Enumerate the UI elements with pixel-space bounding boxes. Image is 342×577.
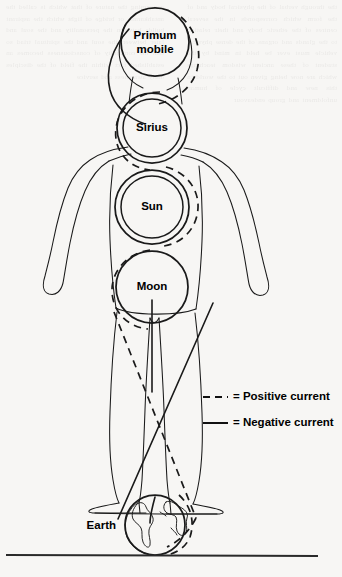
- primum-mobile-circle: [121, 8, 189, 76]
- legend-item-positive-current: = Positive current: [203, 390, 330, 402]
- right-armpit-line: [181, 155, 203, 162]
- right-shoulder-arm: [184, 148, 269, 295]
- right-leg-outer: [193, 313, 202, 504]
- right-leg-inner: [159, 318, 170, 503]
- negative-current-diagonal: [118, 303, 213, 519]
- positive-current-diagonal: [114, 312, 196, 518]
- sphere-sun: Sun: [115, 170, 189, 244]
- left-leg-outer: [110, 312, 119, 503]
- sphere-sirius: Sirius: [117, 93, 187, 163]
- positive-current-earth-right: [167, 495, 192, 555]
- legend: = Positive current = Negative current: [203, 390, 334, 428]
- ankle-left: [139, 503, 140, 513]
- diagram-canvas: the through verbal of the physical body …: [0, 0, 342, 577]
- right-foot: [166, 504, 223, 514]
- moon-label: Moon: [137, 280, 168, 292]
- left-leg-inner: [139, 318, 150, 503]
- earth-label: Earth: [87, 519, 116, 531]
- left-foot: [89, 503, 146, 513]
- earth-limb-arc: [125, 501, 148, 554]
- legend-negative-current-label: = Negative current: [233, 416, 334, 428]
- ankle-right: [170, 503, 171, 514]
- torso-right-side: [196, 166, 202, 309]
- human-figure-outline: [43, 25, 268, 514]
- bottom-rule: [6, 555, 318, 556]
- primum-mobile-label-line1: Primum: [134, 29, 177, 41]
- positive-current-sun-arc: [164, 167, 198, 246]
- sphere-earth: Earth: [87, 495, 188, 555]
- negative-current-earth-link: [150, 497, 155, 523]
- celestial-currents-figure: Primum mobile Sirius Sun Moon: [0, 0, 342, 577]
- legend-positive-current-label: = Positive current: [233, 390, 330, 402]
- left-shoulder-arm: [43, 147, 128, 294]
- sun-label: Sun: [141, 200, 163, 212]
- sphere-primum-mobile: Primum mobile: [121, 8, 189, 76]
- earth-continent-americas: [132, 503, 153, 548]
- legend-item-negative-current: = Negative current: [203, 416, 334, 428]
- foot-base-line: [95, 513, 217, 514]
- primum-mobile-label-line2: mobile: [136, 43, 173, 55]
- sirius-label: Sirius: [136, 121, 168, 133]
